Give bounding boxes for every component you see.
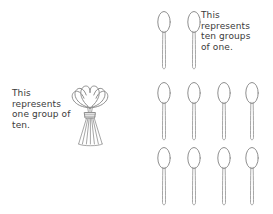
spoon-icon bbox=[155, 81, 173, 143]
bundle-of-ten-spoons-icon bbox=[70, 82, 110, 148]
spoon-icon bbox=[185, 81, 203, 143]
spoon-icon bbox=[215, 146, 233, 208]
spoon-icon bbox=[243, 81, 261, 143]
caption-ten-groups-of-one: This represents ten groups of one. bbox=[201, 10, 271, 52]
spoon-icon bbox=[185, 10, 203, 72]
illustration-canvas: This represents one group of ten. This r… bbox=[0, 0, 273, 214]
spoon-icon bbox=[155, 10, 173, 72]
spoon-icon bbox=[243, 146, 261, 208]
caption-one-group-of-ten: This represents one group of ten. bbox=[12, 88, 78, 130]
spoon-icon bbox=[215, 81, 233, 143]
spoon-icon bbox=[155, 146, 173, 208]
spoon-icon bbox=[185, 146, 203, 208]
